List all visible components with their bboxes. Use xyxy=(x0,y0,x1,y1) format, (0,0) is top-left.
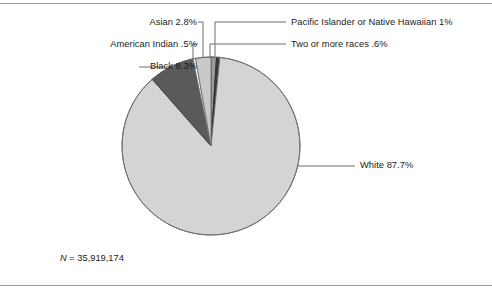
slice-label-asian: Asian 2.8% xyxy=(149,17,197,28)
slice-label-american-indian: American Indian .5% xyxy=(110,39,197,50)
pie-chart-figure: Asian 2.8% American Indian .5% Black 8.3… xyxy=(0,0,492,292)
slice-label-white: White 87.7% xyxy=(360,160,413,171)
leader-line-asian xyxy=(198,22,203,58)
sample-size-value: = 35,919,174 xyxy=(67,253,124,263)
slice-label-two-or-more: Two or more races .6% xyxy=(291,39,388,50)
sample-size-note: N = 35,919,174 xyxy=(60,253,124,263)
pie-slices-group xyxy=(122,57,300,235)
slice-label-pacific-islander: Pacific Islander or Native Hawaiian 1% xyxy=(291,17,453,28)
slice-label-black: Black 8.3% xyxy=(150,61,197,72)
leader-line-pacific-islander xyxy=(215,22,286,56)
leader-line-two-or-more xyxy=(210,44,286,58)
pie-graphic xyxy=(0,0,492,292)
sample-size-symbol: N xyxy=(60,253,67,263)
